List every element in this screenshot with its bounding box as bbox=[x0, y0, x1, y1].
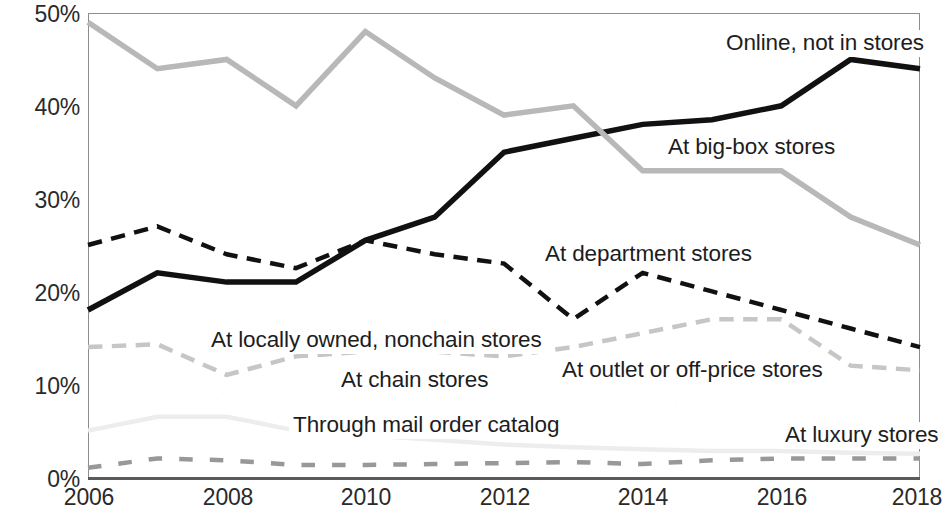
series-label: At outlet or off-price stores bbox=[558, 357, 827, 384]
series-label: Through mail order catalog bbox=[289, 412, 563, 439]
series-label: At chain stores bbox=[337, 367, 492, 394]
series-label: At locally owned, nonchain stores bbox=[207, 327, 546, 354]
series-label: At luxury stores bbox=[781, 422, 942, 449]
series-label: At big-box stores bbox=[664, 134, 839, 161]
series-label: At department stores bbox=[541, 241, 756, 268]
series-label: Online, not in stores bbox=[722, 30, 928, 57]
series-line bbox=[88, 59, 920, 310]
series-line bbox=[88, 458, 920, 467]
